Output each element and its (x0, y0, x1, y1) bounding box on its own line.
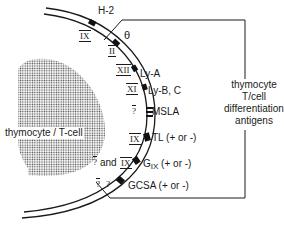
antigen-tl: TL (+ or -) (152, 132, 196, 143)
marker-tl (143, 132, 151, 141)
chromosome-gix-ix: IX (120, 157, 132, 169)
chromosome-gix-q: ? (93, 157, 97, 167)
chromosome-gcsa-q1: ? (96, 179, 100, 189)
group-label-line-3: differentiation (222, 103, 284, 115)
marker-gix (132, 156, 141, 165)
antigen-h2: H-2 (98, 5, 114, 16)
antigen-theta: θ (124, 30, 130, 41)
chromosome-h2: IX (79, 30, 91, 42)
antigen-gix-g: G (143, 158, 151, 169)
antigen-lya: Ly-A (140, 68, 160, 79)
group-label-line-1: thymocyte (222, 79, 284, 91)
antigen-msla: MSLA (152, 106, 179, 117)
antigen-gix-rest: (+ or -) (158, 158, 191, 169)
chromosome-lyb: XI (126, 83, 138, 95)
h2-pointer (104, 20, 122, 40)
marker-lya (131, 64, 138, 72)
antigen-lyb: Ly-B, C (148, 85, 181, 96)
group-label-line-4: antigens (222, 115, 284, 127)
chromosome-gix-and: and (100, 157, 117, 168)
group-label-line-2: T/cell (222, 91, 284, 103)
chromosome-msla: ? (132, 106, 136, 116)
chromosome-gcsa-q2: ? (106, 179, 110, 189)
cell-label: thymocyte / T-cell (4, 127, 84, 139)
chromosome-theta: II (108, 45, 116, 57)
group-label: thymocyte T/cell differentiation antigen… (222, 79, 284, 127)
diagram-canvas: thymocyte / T-cell thymocyte T/cell diff… (0, 0, 284, 232)
antigen-gcsa: GCSA (+ or -) (128, 180, 189, 191)
chromosome-lya: XII (116, 64, 131, 76)
chromosome-tl: IX (129, 133, 141, 145)
antigen-gix: GIX (+ or -) (143, 158, 191, 172)
